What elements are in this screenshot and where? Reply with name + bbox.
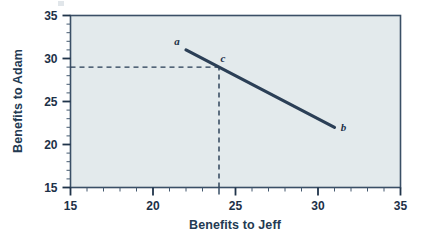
bargaining-frontier-chart: 15202530351520253035 acb Benefits to Jef… xyxy=(0,0,421,243)
point-label-a: a xyxy=(174,35,180,47)
plot-area-background xyxy=(71,16,401,188)
x-tick-label-30: 30 xyxy=(311,199,325,213)
scan-artifact xyxy=(58,1,64,6)
point-label-b: b xyxy=(341,121,347,133)
y-tick-label-35: 35 xyxy=(44,9,58,23)
y-tick-label-30: 30 xyxy=(44,52,58,66)
chart-canvas: 15202530351520253035 acb Benefits to Jef… xyxy=(0,0,421,243)
x-tick-label-35: 35 xyxy=(394,199,408,213)
x-tick-label-20: 20 xyxy=(146,199,160,213)
y-axis-title: Benefits to Adam xyxy=(11,49,25,153)
point-label-c: c xyxy=(221,52,226,64)
x-tick-label-25: 25 xyxy=(229,199,243,213)
y-tick-label-25: 25 xyxy=(44,95,58,109)
x-axis-title: Benefits to Jeff xyxy=(189,218,282,232)
x-tick-label-15: 15 xyxy=(64,199,78,213)
y-tick-label-15: 15 xyxy=(44,181,58,195)
y-tick-label-20: 20 xyxy=(44,138,58,152)
